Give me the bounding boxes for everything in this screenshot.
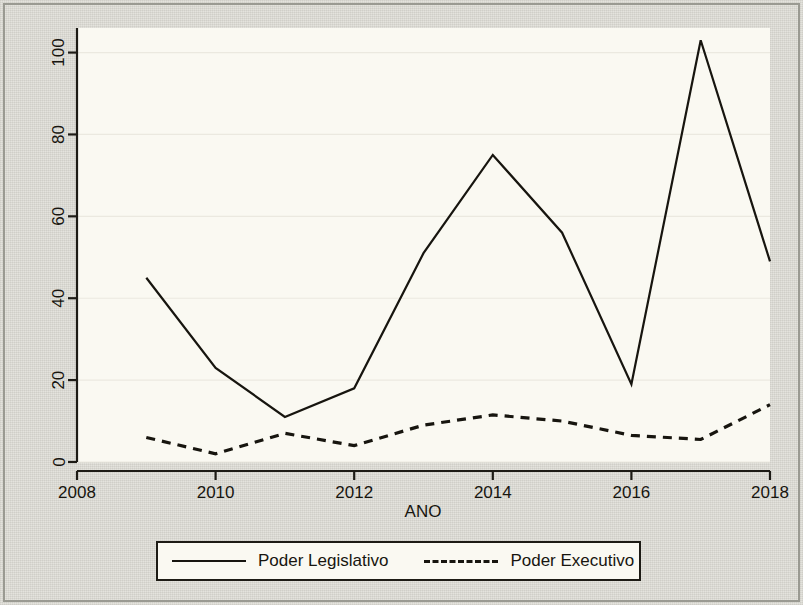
x-tick-label-2016: 2016 — [612, 483, 650, 502]
chart-legend: Poder Legislativo Poder Executivo — [156, 541, 641, 581]
y-axis-ticks-group — [68, 53, 77, 462]
x-tick-label-2014: 2014 — [474, 483, 512, 502]
y-tick-label-40: 40 — [50, 289, 69, 308]
y-tick-label-0: 0 — [50, 457, 69, 466]
legend-label-poder-legislativo: Poder Legislativo — [258, 551, 388, 571]
gridlines-group — [77, 53, 770, 462]
y-axis-tick-labels-group: 020406080100 — [50, 38, 69, 466]
x-tick-label-2010: 2010 — [197, 483, 235, 502]
legend-entry-poder-executivo[interactable]: Poder Executivo — [424, 543, 634, 579]
y-tick-label-20: 20 — [50, 371, 69, 390]
legend-entry-poder-legislativo[interactable]: Poder Legislativo — [172, 543, 388, 579]
x-tick-label-2018: 2018 — [751, 483, 789, 502]
data-series-group — [146, 40, 770, 454]
y-tick-label-80: 80 — [50, 125, 69, 144]
x-axis-ticks-group — [77, 471, 770, 480]
line-chart-figure: 020406080100 200820102012201420162018 AN… — [0, 0, 803, 605]
solid-line-key-icon — [172, 554, 246, 568]
x-tick-label-2012: 2012 — [335, 483, 373, 502]
legend-label-poder-executivo: Poder Executivo — [510, 551, 634, 571]
series-line-poder-executivo — [146, 405, 770, 454]
series-line-poder-legislativo — [146, 40, 770, 417]
y-tick-label-100: 100 — [50, 38, 69, 66]
axis-lines-group — [77, 28, 770, 471]
chart-canvas: 020406080100 200820102012201420162018 AN… — [0, 0, 803, 605]
x-tick-label-2008: 2008 — [58, 483, 96, 502]
dashed-line-key-icon — [424, 554, 498, 568]
x-axis-title: ANO — [405, 502, 442, 521]
y-tick-label-60: 60 — [50, 207, 69, 226]
figure-page: 020406080100 200820102012201420162018 AN… — [0, 0, 803, 605]
x-axis-tick-labels-group: 200820102012201420162018 — [58, 483, 789, 502]
